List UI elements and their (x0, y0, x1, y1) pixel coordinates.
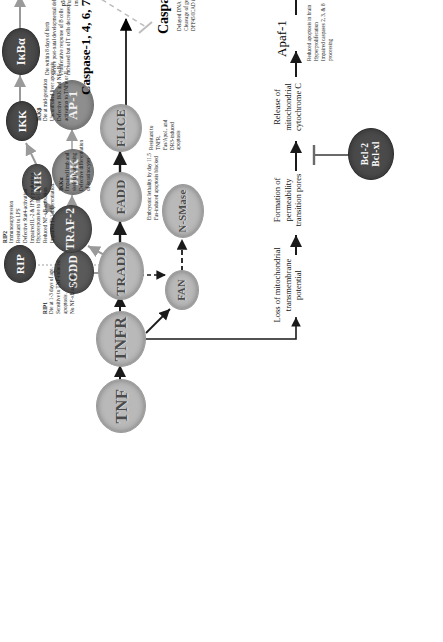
node-nsmase[interactable]: N-SMase (162, 184, 204, 238)
pathway-diagram: N-SMase --> N-SMase --> Apoptosis --> (0, 0, 443, 443)
label-caspase-3: Caspase -3 (156, 0, 172, 34)
node-tnf[interactable]: TNF (96, 379, 146, 433)
label-caspase-1467: Caspase-1, 4, 6, 7 (78, 0, 94, 95)
rotated-diagram-canvas: N-SMase --> N-SMase --> Apoptosis --> (0, 0, 443, 443)
label-loss-of-potential: Loss of mitochondrial transmembrane pote… (272, 247, 304, 323)
annotation-ikba-body: Die within 8 days of birth Severe post-n… (44, 0, 71, 75)
node-rip[interactable]: RIP (4, 245, 36, 283)
label-permeability-pores: Formation of permeability transition por… (272, 162, 304, 238)
node-tradd[interactable]: TRADD (98, 242, 144, 300)
annotation-caspase-3-body: Delayed DNA Fragmentation Cleavage of ge… (176, 0, 197, 31)
node-flice[interactable]: FLICE (100, 104, 142, 152)
node-ikba[interactable]: IκBα (2, 28, 40, 75)
annotation-rip2: RIP2 Immunosuppression Resistant to LPS … (2, 153, 56, 243)
node-tnfr[interactable]: TNFR (96, 311, 146, 367)
annotation-ikka-body: Impaired limb and skeletal patterning De… (64, 125, 91, 191)
annotation-rip2-body: Immunosuppression Resistant to LPS Defec… (8, 153, 56, 243)
label-cytochrome-c: Release of mitochondrial cytochrome C (272, 69, 304, 145)
node-ikk[interactable]: IKK (6, 101, 38, 141)
annotation-rip1: RIP1 Die at 1-3 days of age. Sensitive t… (42, 252, 75, 314)
annotation-ikka: IKKα Impaired limb and skeletal patterni… (58, 125, 91, 191)
annotation-p50-body: Functional defects in immune responses (66, 0, 80, 6)
label-apaf1: Apaf-1 (274, 20, 290, 57)
annotation-apaf1-body: Reduced apoptosis in brain Hyperprolifer… (306, 0, 333, 61)
annotation-p50: p50 Functional defects in immune respons… (60, 0, 80, 6)
node-bcl2-bclxl[interactable]: Bcl-2 Bcl-xl (348, 128, 394, 180)
node-traf2[interactable]: TRAF-2 (50, 205, 92, 253)
node-fan[interactable]: FAN (165, 270, 199, 310)
annotation-rip1-body: Die at 1-3 days of age. Sensitive to TNF… (48, 252, 75, 314)
annotation-flice-body: Resistant to TNFR, Fas/Apo1, and DR3-ind… (148, 110, 182, 150)
annotation-ikba: IκBα Die within 8 days of birth Severe p… (44, 0, 71, 75)
node-fadd[interactable]: FADD (100, 172, 142, 222)
